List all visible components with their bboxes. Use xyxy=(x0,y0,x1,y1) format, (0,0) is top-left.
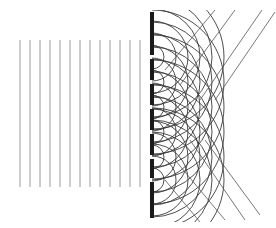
diffracted-rays xyxy=(165,10,275,222)
diffracted-ray xyxy=(180,10,235,85)
diffracted-ray xyxy=(200,10,262,100)
barrier-segment xyxy=(150,182,154,218)
diffracted-wavefront-arcs xyxy=(152,0,224,228)
barrier-segment xyxy=(150,84,154,105)
incident-wavefronts xyxy=(20,40,140,187)
barrier-segment xyxy=(150,109,154,130)
wavefront-arc xyxy=(152,120,212,228)
grating-barrier xyxy=(150,12,154,218)
barrier-segment xyxy=(150,134,154,155)
diffracted-ray xyxy=(165,180,200,222)
barrier-segment xyxy=(150,59,154,80)
diagram-canvas xyxy=(0,0,276,228)
diffracted-ray xyxy=(190,140,245,220)
barrier-segment xyxy=(150,12,154,55)
barrier-segment xyxy=(150,159,154,178)
wavefront-arc xyxy=(152,21,188,93)
diffracted-ray xyxy=(205,140,260,215)
